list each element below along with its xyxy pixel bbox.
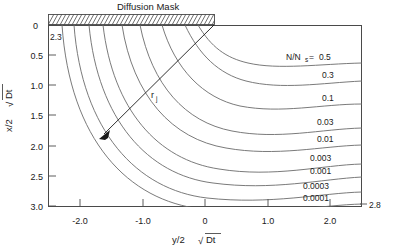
contour-label-3: 0.03 (317, 117, 334, 127)
y-tick-label-0: 0 (33, 21, 38, 31)
contour-label-6: 0.001 (310, 166, 332, 176)
plot-frame (49, 26, 362, 207)
y-axis-title-under: Dt (3, 89, 14, 99)
y-axis: 0 0.5 1.0 1.5 2.0 2.5 3.0 (30, 21, 56, 212)
contour-0.5 (198, 25, 362, 66)
right-edge-value: 2.8 (369, 200, 381, 210)
junction-radius-arrow: r j (99, 25, 214, 140)
junction-depth-subscript: j (155, 95, 157, 103)
contour-label-0: 0.5 (319, 52, 331, 62)
junction-depth-label: r (151, 90, 154, 100)
contour-labels: N/N s = 0.5 0.3 0.1 0.03 0.01 0.003 0.00… (286, 52, 334, 203)
contour-label-2: 0.1 (322, 93, 334, 103)
x-axis-title: y/2 √ Dt (172, 234, 221, 247)
y-axis-radical-icon: √ (4, 101, 15, 107)
y-tick-label-3: 1.5 (30, 111, 43, 121)
x-axis-title-main: y/2 (172, 234, 185, 245)
y-tick-label-5: 2.5 (30, 172, 43, 182)
x-tick-label-0: -2.0 (72, 216, 88, 226)
contour-0.3 (185, 25, 362, 85)
y-tick-label-6: 3.0 (30, 202, 43, 212)
x-tick-label-3: 1.0 (262, 216, 275, 226)
contour-label-5: 0.003 (310, 153, 332, 163)
x-axis-radical-icon: √ (198, 235, 204, 246)
contour-label-8: 0.0001 (303, 193, 329, 203)
corner-value: 2.3 (50, 32, 62, 42)
y-tick-label-2: 1.0 (30, 81, 43, 91)
x-axis: -2.0 -1.0 0 1.0 2.0 (72, 199, 336, 226)
contour-label-1: 0.3 (322, 70, 334, 80)
right-edge-value-group: 2.8 (360, 200, 381, 210)
x-axis-title-under: Dt (206, 234, 216, 245)
y-axis-title: x/2 √ Dt (3, 84, 16, 132)
x-tick-label-2: 0 (202, 216, 207, 226)
legend-equals: = (309, 52, 314, 62)
x-tick-label-1: -1.0 (135, 216, 151, 226)
x-tick-label-4: 2.0 (324, 216, 337, 226)
contour-label-7: 0.0003 (303, 181, 329, 191)
contour-label-4: 0.01 (317, 134, 334, 144)
figure-title: Diffusion Mask (117, 1, 179, 12)
diffusion-mask (48, 14, 218, 25)
legend-prefix: N/N (286, 52, 301, 62)
y-tick-label-1: 0.5 (30, 51, 43, 61)
figure-canvas: Diffusion Mask (0, 0, 402, 251)
diffusion-contour-figure: Diffusion Mask (0, 0, 402, 251)
y-tick-label-4: 2.0 (30, 142, 43, 152)
y-axis-title-main: x/2 (3, 119, 14, 132)
